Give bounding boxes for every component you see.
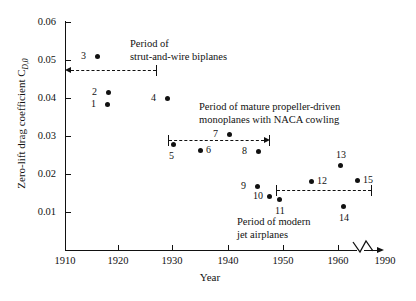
annotation-line: Period of modern	[237, 216, 311, 229]
annotation-line: monoplanes with NACA cowling	[199, 114, 340, 127]
figure-zero-lift-drag-vs-year: 0.060.050.040.030.020.01 191019201930194…	[0, 0, 416, 301]
plot-area: 0.060.050.040.030.020.01 191019201930194…	[0, 0, 416, 301]
annotation-line: Period of mature propeller-driven	[199, 101, 340, 114]
bracket-arrow-right-icon	[264, 137, 270, 143]
data-point	[255, 184, 260, 189]
data-point-label: 8	[242, 146, 247, 156]
period-bracket-mature-propeller-driven-monoplanes	[168, 135, 270, 146]
data-point-label: 15	[363, 175, 373, 185]
annotation-modern-jet-airplanes: Period of modernjet airplanes	[237, 216, 311, 241]
scan-page-edge	[410, 0, 416, 301]
y-tick	[65, 174, 71, 175]
axis-break-icon	[352, 236, 376, 254]
x-tick	[65, 245, 66, 251]
bracket-dashed-line	[169, 140, 264, 141]
x-tick	[172, 245, 173, 251]
data-point	[267, 194, 272, 199]
data-point-label: 4	[151, 93, 156, 103]
data-point	[105, 102, 110, 107]
y-axis-title-subscript: D,0	[21, 58, 30, 69]
y-tick	[65, 98, 71, 99]
period-bracket-modern-jet-airplanes	[276, 185, 372, 196]
x-tick-label: 1950	[261, 256, 305, 267]
y-tick	[65, 60, 71, 61]
x-tick-label: 1930	[150, 256, 194, 267]
bracket-end-bar-left	[168, 135, 169, 146]
data-point	[277, 197, 282, 202]
data-point	[338, 163, 343, 168]
data-point-label: 11	[275, 206, 285, 216]
annotation-line: strut-and-wire biplanes	[130, 51, 227, 64]
y-axis-title: Zero-lift drag coefficient CD,0	[15, 19, 32, 229]
x-tick	[338, 245, 339, 251]
data-point-label: 1	[91, 99, 96, 109]
y-tick	[65, 212, 71, 213]
y-axis-title-text: Zero-lift drag coefficient C	[15, 69, 27, 188]
bracket-end-bar-left	[276, 185, 277, 196]
x-axis-title: Year	[160, 272, 260, 283]
x-tick	[228, 245, 229, 251]
x-axis-line	[65, 250, 357, 251]
data-point	[106, 90, 111, 95]
y-tick	[65, 136, 71, 137]
data-point-label: 9	[241, 181, 246, 191]
annotation-strut-and-wire-biplanes: Period ofstrut-and-wire biplanes	[130, 38, 227, 63]
data-point	[355, 178, 360, 183]
data-point	[309, 179, 314, 184]
data-point	[165, 96, 170, 101]
data-point-label: 6	[206, 145, 211, 155]
y-tick	[65, 22, 71, 23]
annotation-mature-propeller-driven-monoplanes: Period of mature propeller-drivenmonopla…	[199, 101, 340, 126]
x-tick-label: 1910	[43, 256, 87, 267]
data-point-label: 5	[169, 151, 174, 161]
x-tick-label: 1920	[96, 256, 140, 267]
bracket-arrow-left-icon	[65, 67, 71, 73]
data-point-label: 13	[336, 150, 346, 160]
x-axis-arrow-icon	[377, 247, 384, 253]
x-tick	[283, 245, 284, 251]
data-point	[171, 142, 176, 147]
data-point-label: 10	[253, 191, 263, 201]
annotation-line: jet airplanes	[237, 229, 311, 242]
bracket-end-bar-right	[156, 65, 157, 76]
bracket-dashed-line	[71, 70, 156, 71]
x-tick-label: 1990	[363, 256, 407, 267]
data-point	[95, 54, 100, 59]
data-point-label: 14	[339, 213, 349, 223]
x-tick	[118, 245, 119, 251]
data-point-label: 7	[213, 129, 218, 139]
data-point	[198, 148, 203, 153]
data-point	[256, 149, 261, 154]
data-point	[341, 204, 346, 209]
data-point-label: 3	[81, 51, 86, 61]
x-tick-label: 1960	[316, 256, 360, 267]
data-point-label: 2	[92, 87, 97, 97]
bracket-dashed-line	[277, 190, 371, 191]
x-tick-label: 1940	[206, 256, 250, 267]
period-bracket-strut-and-wire-biplanes	[65, 65, 157, 76]
data-point	[227, 132, 232, 137]
annotation-line: Period of	[130, 38, 227, 51]
bracket-end-bar-right	[371, 185, 372, 196]
data-point-label: 12	[317, 176, 327, 186]
